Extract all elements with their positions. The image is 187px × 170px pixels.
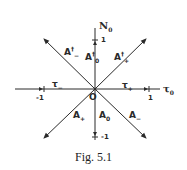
label-tau-plus: τ+: [122, 81, 133, 90]
label-a-dagger-zero: A†0: [85, 53, 99, 62]
vertical-tick-pos-label: 1: [101, 37, 106, 44]
vertical-tick-neg-label: -1: [101, 134, 109, 141]
horizontal-tick-pos-label: 1: [148, 95, 153, 102]
origin-label: O: [89, 93, 97, 102]
horizontal-tick-neg-label: -1: [36, 95, 44, 102]
label-a-plus: A+: [73, 111, 85, 120]
figure-caption: Fig. 5.1: [0, 150, 187, 165]
figure-5-1: N0 τ0 1 -1 -1 1 O A†− A†0 A†+ τ− τ+ A+ A…: [0, 0, 187, 170]
label-a-dagger-plus: A†+: [114, 53, 129, 62]
label-a-dagger-minus: A†−: [64, 48, 79, 57]
diagonal-upper-right: [95, 39, 146, 89]
horizontal-axis-label: τ0: [163, 84, 174, 94]
origin-point: [94, 88, 97, 91]
diagonal-lower-left: [44, 89, 95, 138]
label-a-minus: A−: [129, 111, 141, 120]
label-a-zero: A0: [99, 111, 110, 120]
label-tau-minus: τ−: [52, 80, 63, 89]
axes-diagram: [0, 0, 187, 170]
vertical-axis-label: N0: [99, 21, 112, 31]
